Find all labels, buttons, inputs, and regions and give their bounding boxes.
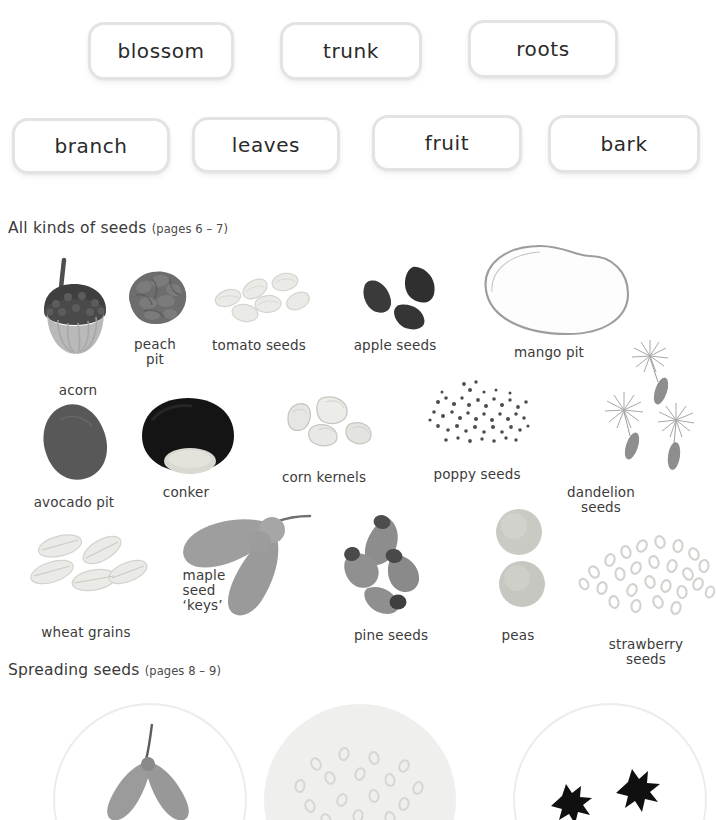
word-card-leaves[interactable]: leaves [192,117,340,173]
section-title: All kinds of seeds [8,219,147,237]
seed-label-mango-pit: mango pit [514,345,584,360]
seed-label-wheat-grains: wheat grains [41,625,130,640]
seed-label-conker: conker [163,485,209,500]
seed-label-pine-seeds: pine seeds [354,628,428,643]
section-pages: (pages 6 – 7) [152,222,228,236]
seed-label-corn-kernels: corn kernels [282,470,366,485]
word-card-label: roots [516,39,570,59]
word-card-label: blossom [117,41,204,61]
seed-label-poppy-seeds: poppy seeds [433,467,520,482]
corn-kernels-illustration [274,388,379,450]
seed-label-apple-seeds: apple seeds [354,338,437,353]
word-card-branch[interactable]: branch [12,118,170,174]
word-card-label: bark [600,134,647,154]
word-card-fruit[interactable]: fruit [372,115,522,171]
seed-label-strawberry-seeds: strawberry seeds [609,637,683,667]
strawberry-seeds-illustration [576,532,716,616]
section-title: Spreading seeds [8,661,140,679]
word-card-roots[interactable]: roots [468,20,618,78]
seed-label-acorn: acorn [59,383,98,398]
avocado-pit-illustration [36,398,116,488]
seed-label-maple-seed-keys: maple seed ‘keys’ [183,568,226,613]
word-card-trunk[interactable]: trunk [280,22,422,80]
section-pages: (pages 8 – 9) [145,664,221,678]
dandelion-seeds-illustration [596,338,712,478]
seed-label-tomato-seeds: tomato seeds [212,338,306,353]
pine-seeds-illustration [340,510,450,616]
section-heading-all-kinds-of-seeds: All kinds of seeds (pages 6 – 7) [8,218,228,237]
seed-label-avocado-pit: avocado pit [34,495,115,510]
seed-label-dandelion-seeds: dandelion seeds [567,485,635,515]
word-card-label: branch [54,136,127,156]
word-card-label: trunk [323,41,379,61]
seed-label-peach-pit: peach pit [134,337,176,367]
word-card-label: fruit [425,133,469,153]
peach-pit-illustration [118,265,198,335]
apple-seeds-illustration [352,262,442,332]
poppy-seeds-illustration [424,378,534,450]
tomato-seeds-illustration [208,268,318,328]
seed-label-peas: peas [502,628,535,643]
word-card-bark[interactable]: bark [548,115,700,173]
word-card-label: leaves [232,135,300,155]
conker-illustration [134,394,242,480]
word-card-blossom[interactable]: blossom [88,22,234,80]
mango-pit-illustration [472,238,637,343]
spreading-seeds-row [0,700,712,820]
section-heading-spreading-seeds: Spreading seeds (pages 8 – 9) [8,660,221,679]
wheat-grains-illustration [28,528,148,608]
peas-illustration [486,508,556,610]
